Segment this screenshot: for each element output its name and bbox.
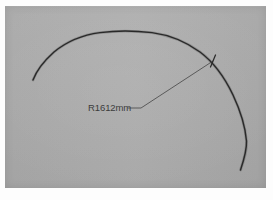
figure-root: R1612mm (0, 0, 273, 200)
arc-curve (33, 31, 247, 170)
radius-leader-line (128, 61, 213, 108)
arc-curve-ink-bleed (33, 31, 247, 170)
technical-drawing-canvas: R1612mm (0, 0, 273, 200)
radius-dimension-label: R1612mm (88, 102, 131, 113)
